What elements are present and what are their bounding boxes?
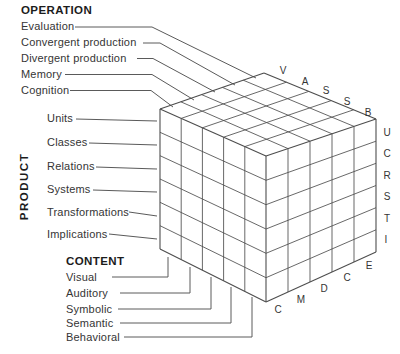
cube-letter-semantic: S <box>344 96 351 107</box>
cube-letter-evaluation: E <box>366 260 373 271</box>
memory-leader-line <box>65 75 194 101</box>
classes-leader-line <box>89 143 157 145</box>
semantic-leader-line <box>120 287 231 323</box>
behavioral-leader-line <box>124 297 252 337</box>
cube-letter-convergent: C <box>343 272 350 283</box>
divergent-leader-line <box>137 59 215 93</box>
cube-grid <box>160 73 376 302</box>
systems-leader-line <box>93 190 157 192</box>
cube-letter-relations: R <box>383 170 390 181</box>
cube-letter-systems: S <box>384 191 391 202</box>
implications-leader-line <box>109 234 157 239</box>
cube-letter-behavioral: B <box>365 107 372 118</box>
convergent-leader-line <box>143 43 235 85</box>
cube-letter-transformations: T <box>384 213 390 224</box>
cube-letter-cognition: C <box>274 304 281 315</box>
soi-cube-diagram: OPERATION Evaluation Convergent producti… <box>0 0 400 354</box>
cube-letter-classes: C <box>383 148 390 159</box>
visual-leader-line <box>112 257 168 277</box>
cube-figure: V A S S B U C R S T I C M D C E <box>0 0 400 354</box>
transformations-leader-line <box>129 212 157 216</box>
cube-letter-memory: M <box>297 294 305 305</box>
cognition-leader-line <box>70 91 173 108</box>
cube-letter-symbolic: S <box>323 85 330 96</box>
cube-letter-units: U <box>383 127 390 138</box>
relations-leader-line <box>96 167 157 169</box>
cube-letter-implications: I <box>385 234 388 245</box>
evaluation-leader-line <box>75 27 256 78</box>
units-leader-line <box>76 119 157 121</box>
cube-letter-auditory: A <box>302 76 309 87</box>
cube-letter-divergent: D <box>320 283 327 294</box>
cube-letter-visual: V <box>280 65 287 76</box>
auditory-leader-line <box>120 267 190 293</box>
